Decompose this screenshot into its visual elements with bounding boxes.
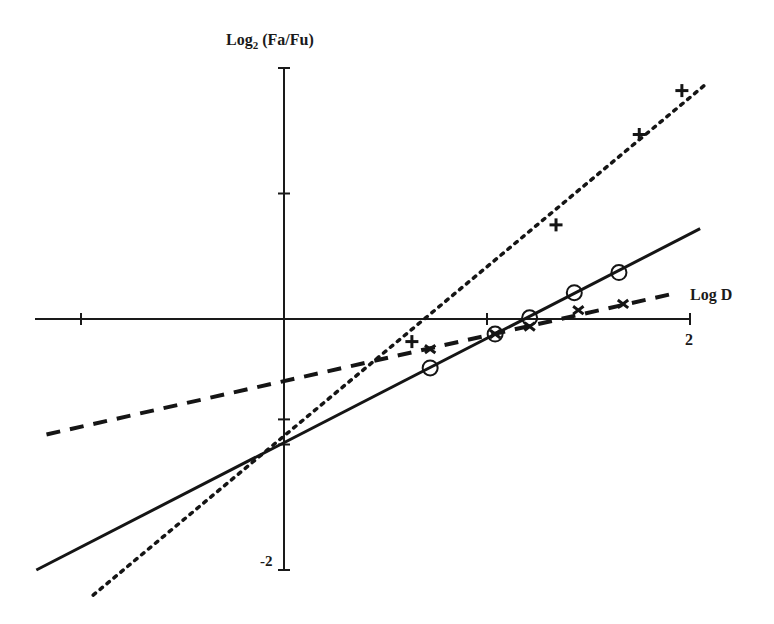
plus-marker [551, 220, 561, 230]
x-marker [574, 307, 582, 313]
circle-solid-line [36, 229, 700, 570]
fit-lines [36, 86, 704, 596]
chart: Log2 (Fa/Fu) Log D 2-2 [0, 0, 774, 624]
plus-marker [407, 337, 417, 347]
x-axis-label: Log D [690, 286, 732, 304]
y-tick-label: -2 [260, 553, 273, 569]
data-markers [407, 86, 687, 376]
y-axis-label: Log2 (Fa/Fu) [226, 31, 314, 51]
x-tick-label: 2 [685, 331, 693, 348]
axes [35, 68, 690, 570]
plus-dotted-line [93, 86, 704, 596]
tick-labels: 2-2 [260, 331, 693, 569]
plus-marker [677, 86, 687, 96]
